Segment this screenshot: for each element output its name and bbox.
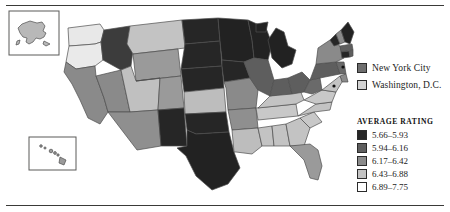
rating-swatch-2 xyxy=(357,156,367,166)
us-choropleth-map xyxy=(0,0,356,212)
city-legend-label-washington-dc: Washington, D.C. xyxy=(372,80,441,90)
region-ND xyxy=(182,18,220,44)
region-AZ xyxy=(108,110,161,150)
region-WY xyxy=(133,49,181,81)
region-OR xyxy=(66,42,103,69)
city-legend: New York City Washington, D.C. xyxy=(357,60,449,94)
rating-legend-label-4: 6.89–7.75 xyxy=(372,182,408,192)
city-marker-new-york-city xyxy=(341,65,344,68)
rating-legend-label-0: 5.66–5.93 xyxy=(372,130,408,140)
region-AR xyxy=(228,108,258,130)
city-swatch-new-york-city xyxy=(357,63,367,73)
city-legend-label-new-york-city: New York City xyxy=(372,63,431,73)
city-legend-item-washington-dc: Washington, D.C. xyxy=(357,77,449,92)
rating-legend-item-3: 6.43–6.88 xyxy=(357,168,449,180)
region-SD xyxy=(181,41,222,69)
rating-swatch-3 xyxy=(357,169,367,179)
rating-legend-item-0: 5.66–5.93 xyxy=(357,129,449,141)
map-figure: New York City Washington, D.C. AVERAGE R… xyxy=(0,0,450,212)
region-MD xyxy=(322,76,342,92)
region-CA xyxy=(64,62,108,124)
region-KS xyxy=(184,88,226,114)
hawaii-inset-box xyxy=(29,137,76,170)
region-PA xyxy=(310,62,340,80)
rating-swatch-1 xyxy=(357,143,367,153)
region-OK xyxy=(185,112,229,134)
rating-legend-item-2: 6.17–6.42 xyxy=(357,155,449,167)
region-CT xyxy=(341,51,350,58)
city-marker-washington-dc xyxy=(332,84,335,87)
rating-legend-item-1: 5.94–6.16 xyxy=(357,142,449,154)
region-NE xyxy=(181,66,224,92)
rating-legend: AVERAGE RATING 5.66–5.93 5.94–6.16 6.17–… xyxy=(357,117,449,194)
city-swatch-washington-dc xyxy=(357,80,367,90)
rating-legend-label-3: 6.43–6.88 xyxy=(372,169,408,179)
rating-swatch-0 xyxy=(357,130,367,140)
city-legend-item-new-york-city: New York City xyxy=(357,60,449,75)
map-area xyxy=(0,0,356,212)
region-FL xyxy=(290,144,322,180)
region-LA xyxy=(232,128,262,154)
rating-legend-label-1: 5.94–6.16 xyxy=(372,143,408,153)
region-ID xyxy=(101,26,133,70)
region-NM xyxy=(158,108,187,146)
region-RI xyxy=(349,50,353,57)
rating-legend-title: AVERAGE RATING xyxy=(357,117,449,126)
rating-legend-label-2: 6.17–6.42 xyxy=(372,156,408,166)
rating-legend-item-4: 6.89–7.75 xyxy=(357,181,449,193)
rating-swatch-4 xyxy=(357,182,367,192)
